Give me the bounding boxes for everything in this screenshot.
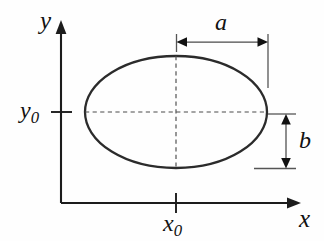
tick-group (51, 112, 176, 213)
y0-main: y (20, 97, 31, 123)
ellipse-diagram-figure: y x y0 x0 a b (0, 0, 324, 241)
x0-main: x (163, 210, 174, 236)
dimension-a-group (177, 34, 269, 88)
dimension-b-group (254, 114, 296, 169)
y0-subscript: 0 (31, 108, 39, 127)
y0-tick-label: y0 (20, 98, 39, 122)
y-axis-arrowhead-icon (56, 20, 67, 34)
x-axis-label: x (299, 206, 310, 231)
dimension-b-top-arrowhead-icon (281, 114, 291, 125)
dimension-b-label: b (299, 128, 311, 152)
y-axis-label: y (40, 8, 51, 33)
dimension-b-bottom-arrowhead-icon (281, 158, 291, 169)
x0-tick-label: x0 (163, 211, 182, 235)
diagram-canvas (0, 0, 324, 241)
dimension-a-right-arrowhead-icon (258, 37, 269, 47)
dimension-a-left-arrowhead-icon (177, 37, 188, 47)
dimension-a-label: a (215, 10, 227, 34)
axes-group (56, 20, 301, 208)
x0-subscript: 0 (174, 221, 182, 240)
